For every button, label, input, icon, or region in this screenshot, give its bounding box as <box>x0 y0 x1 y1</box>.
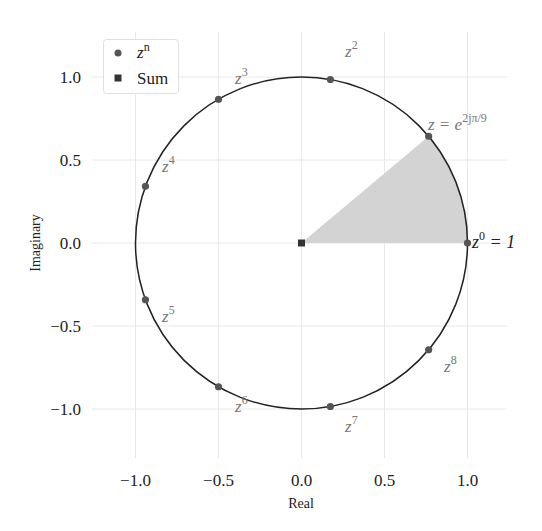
x-tick-label: 1.0 <box>457 471 478 490</box>
label-z3: z3 <box>234 65 248 88</box>
label-z2: z2 <box>344 38 358 61</box>
point-z2 <box>327 76 334 83</box>
point-z6 <box>215 383 222 390</box>
legend-circle-icon <box>115 50 122 57</box>
chart-canvas: −1.0−0.50.00.51.0 −1.0−0.50.00.51.0 Real… <box>0 0 542 531</box>
label-z5: z5 <box>161 303 175 326</box>
y-axis-label: Imaginary <box>28 214 43 272</box>
label-z1: z = e2jπ/9 <box>427 111 487 134</box>
point-z8 <box>425 346 432 353</box>
label-z8: z8 <box>443 353 457 376</box>
y-tick-label: −1.0 <box>50 400 81 419</box>
point-z3 <box>215 96 222 103</box>
legend-item-sum: Sum <box>137 69 168 88</box>
x-tick-labels: −1.0−0.50.00.51.0 <box>120 471 478 490</box>
y-tick-label: 1.0 <box>60 68 81 87</box>
label-z0: z0 = 1 <box>471 229 515 252</box>
label-z7: z7 <box>344 413 358 436</box>
y-tick-labels: −1.0−0.50.00.51.0 <box>50 68 81 419</box>
x-tick-label: −0.5 <box>203 471 234 490</box>
y-tick-label: 0.5 <box>60 151 81 170</box>
label-z4: z4 <box>161 153 175 176</box>
x-tick-label: −1.0 <box>120 471 151 490</box>
y-tick-label: −0.5 <box>50 317 81 336</box>
label-z6: z6 <box>234 393 248 416</box>
point-z4 <box>142 183 149 190</box>
point-z0 <box>464 239 471 246</box>
x-tick-label: 0.5 <box>374 471 395 490</box>
y-tick-label: 0.0 <box>60 234 81 253</box>
sum-marker <box>298 240 305 247</box>
point-z5 <box>142 296 149 303</box>
x-axis-label: Real <box>288 496 314 511</box>
x-tick-label: 0.0 <box>291 471 312 490</box>
legend: zn Sum <box>104 40 179 94</box>
point-z7 <box>327 403 334 410</box>
legend-square-icon <box>115 75 122 82</box>
